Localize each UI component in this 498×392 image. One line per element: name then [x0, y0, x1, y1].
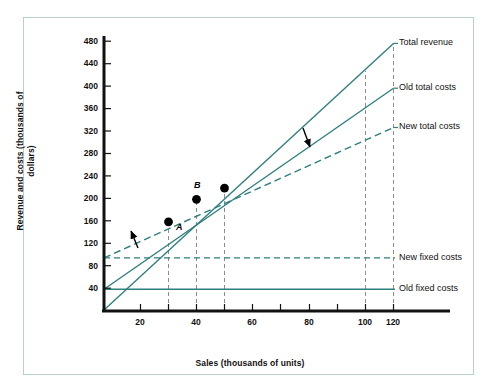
arrow-new-total-costs-lower	[131, 231, 138, 248]
chart-page: 480 440 400 360 320 280 240 200 160 120 …	[0, 0, 498, 392]
y-tick-label: 280	[72, 148, 98, 158]
series-label-total-revenue: Total revenue	[399, 37, 453, 47]
y-tick-label: 160	[72, 216, 98, 226]
y-tick-label: 360	[72, 103, 98, 113]
droplines	[169, 43, 394, 310]
y-tick-label: 240	[72, 171, 98, 181]
data-point-a	[164, 217, 173, 226]
y-tick-label: 480	[72, 36, 98, 46]
data-point-intersection	[220, 184, 229, 193]
y-tick-label: 320	[72, 126, 98, 136]
old-total-costs-line	[104, 88, 394, 289]
data-point-label-b: B	[194, 180, 201, 190]
series-label-old-total-costs: Old total costs	[399, 82, 456, 92]
new-total-costs-line	[104, 128, 394, 258]
y-tick-label: 40	[72, 283, 98, 293]
y-axis-title: Revenue and costs (thousands of dollars)	[15, 91, 37, 231]
data-point-b	[192, 195, 201, 204]
y-tick-label: 440	[72, 58, 98, 68]
label-leaders	[394, 43, 399, 127]
x-tick-label: 20	[127, 317, 153, 327]
y-tick-label: 200	[72, 193, 98, 203]
series-label-old-fixed-costs: Old fixed costs	[399, 283, 458, 293]
series-label-new-total-costs: New total costs	[399, 121, 460, 131]
x-tick-label: 60	[239, 317, 265, 327]
x-tick-label: 120	[380, 317, 406, 327]
series-label-new-fixed-costs: New fixed costs	[399, 252, 462, 262]
y-tick-label: 80	[72, 261, 98, 271]
x-tick-label: 100	[352, 317, 378, 327]
arrow-new-total-costs-upper	[303, 128, 310, 147]
y-tick-label: 400	[72, 81, 98, 91]
total-revenue-line	[104, 43, 394, 310]
x-tick-label: 40	[183, 317, 209, 327]
data-point-label-a: A	[176, 222, 183, 232]
x-axis-title: Sales (thousands of units)	[130, 358, 370, 368]
x-tick-label: 80	[296, 317, 322, 327]
y-tick-label: 120	[72, 238, 98, 248]
